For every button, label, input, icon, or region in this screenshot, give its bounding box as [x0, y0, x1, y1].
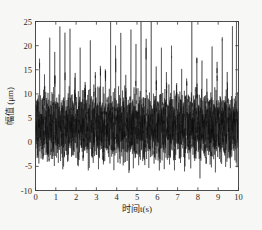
y-tick-label: 10	[24, 89, 33, 99]
y-tick-label: 0	[28, 137, 32, 147]
x-tick-label: 4	[115, 192, 120, 202]
plot-area-background	[36, 22, 239, 191]
x-tick-label: 9	[216, 192, 220, 202]
x-tick-label: 10	[234, 192, 243, 202]
x-tick-label: 8	[196, 192, 200, 202]
figure-root: 012345678910 -10-50510152025 时间t(s) 幅值 (…	[0, 0, 262, 230]
x-tick-label: 7	[175, 192, 179, 202]
vibration-amplitude-chart: 012345678910 -10-50510152025 时间t(s) 幅值 (…	[0, 0, 262, 230]
y-tick-label: -5	[25, 161, 32, 171]
x-axis-title: 时间t(s)	[122, 203, 152, 214]
y-tick-label: -10	[21, 186, 32, 196]
x-tick-label: 3	[94, 192, 98, 202]
x-tick-label: 5	[135, 192, 139, 202]
y-tick-label: 20	[24, 41, 33, 51]
plot-stage: 012345678910 -10-50510152025 时间t(s) 幅值 (…	[0, 0, 262, 230]
y-tick-label: 25	[24, 17, 33, 27]
y-tick-label: 5	[28, 113, 32, 123]
y-tick-label: 15	[24, 65, 33, 75]
x-tick-label: 2	[74, 192, 78, 202]
x-tick-label: 0	[33, 192, 37, 202]
x-tick-label: 6	[155, 192, 159, 202]
x-tick-label: 1	[54, 192, 58, 202]
y-axis-title: 幅值 (μm)	[4, 87, 15, 125]
